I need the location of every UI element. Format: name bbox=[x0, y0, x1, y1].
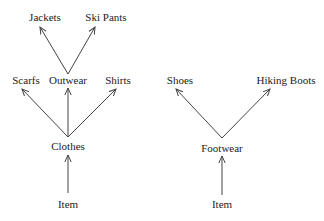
left-tree-labels: Jackets Ski Pants Scarfs Outwear Shirts … bbox=[12, 11, 131, 210]
node-clothes: Clothes bbox=[51, 140, 85, 152]
node-item-right: Item bbox=[212, 198, 233, 210]
node-hiking-boots: Hiking Boots bbox=[257, 74, 316, 86]
left-tree-edges bbox=[22, 27, 116, 193]
node-outwear: Outwear bbox=[49, 74, 87, 86]
edge-clothes-to-scarfs bbox=[22, 89, 68, 137]
node-jackets: Jackets bbox=[29, 11, 61, 23]
right-tree-labels: Shoes Hiking Boots Footwear Item bbox=[167, 74, 316, 210]
edge-footwear-to-shoes bbox=[176, 89, 222, 138]
node-shoes: Shoes bbox=[167, 74, 193, 86]
node-ski-pants: Ski Pants bbox=[85, 11, 126, 23]
node-item-left: Item bbox=[58, 198, 79, 210]
edge-clothes-to-shirts bbox=[68, 89, 116, 137]
node-footwear: Footwear bbox=[201, 142, 243, 154]
node-scarfs: Scarfs bbox=[12, 74, 40, 86]
node-shirts: Shirts bbox=[105, 74, 131, 86]
taxonomy-diagram: Jackets Ski Pants Scarfs Outwear Shirts … bbox=[0, 0, 324, 221]
edge-outwear-to-ski-pants bbox=[68, 27, 95, 74]
edge-footwear-to-hiking-boots bbox=[222, 89, 270, 138]
edge-outwear-to-jackets bbox=[40, 27, 68, 74]
